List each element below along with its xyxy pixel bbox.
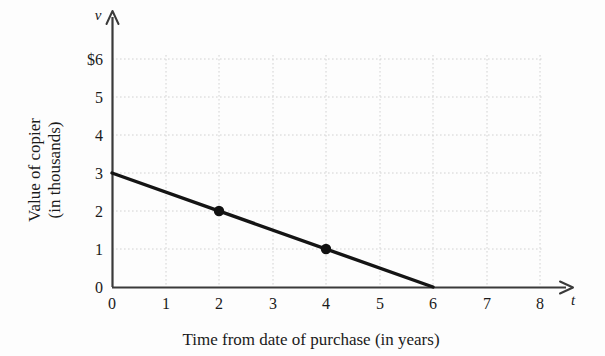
x-axis-title: Time from date of purchase (in years): [182, 330, 439, 349]
y-tick-label-1: 1: [95, 241, 103, 258]
y-tick-label-5: 5: [95, 89, 103, 106]
x-tick-label-7: 7: [483, 295, 491, 312]
x-tick-label-5: 5: [376, 295, 384, 312]
y-tick-label-6: $6: [87, 51, 103, 68]
x-tick-label-2: 2: [215, 295, 223, 312]
data-point-marker-4-1: [321, 244, 331, 254]
value-of-copier-line-chart: v t 0 1 2 3 4 5 $6 0 1 2 3 4 5 6 7 8: [0, 0, 605, 356]
data-point-marker-2-2: [214, 206, 224, 216]
x-tick-label-0: 0: [108, 295, 116, 312]
x-tick-label-8: 8: [536, 295, 544, 312]
y-axis-variable-label: v: [95, 7, 102, 23]
x-tick-label-3: 3: [269, 295, 277, 312]
chart-figure: v t 0 1 2 3 4 5 $6 0 1 2 3 4 5 6 7 8: [0, 0, 605, 356]
x-tick-label-6: 6: [429, 295, 437, 312]
y-tick-label-4: 4: [95, 127, 103, 144]
y-axis-title-line-1: Value of copier: [25, 118, 44, 222]
x-tick-label-1: 1: [162, 295, 170, 312]
y-tick-label-3: 3: [95, 165, 103, 182]
x-tick-label-4: 4: [322, 295, 330, 312]
y-axis-title-line-2: (in thousands): [45, 122, 64, 219]
y-tick-label-0: 0: [95, 279, 103, 296]
y-axis-title: Value of copier (in thousands): [25, 118, 64, 222]
y-tick-label-2: 2: [95, 203, 103, 220]
